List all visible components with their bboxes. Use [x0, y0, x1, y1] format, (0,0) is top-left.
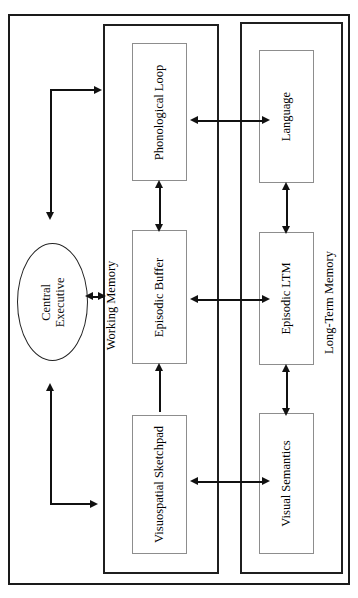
- node-episodic-buffer-label: Episodic Buffer: [133, 231, 186, 363]
- node-episodic-buffer[interactable]: Episodic Buffer: [132, 230, 187, 364]
- diagram-canvas: Working Memory Phonological Loop Episodi…: [0, 0, 358, 598]
- node-central-executive-label: Central Executive: [18, 244, 87, 360]
- node-visuospatial-sketchpad[interactable]: Visuospatial Sketchpad: [132, 415, 187, 554]
- node-phonological-loop[interactable]: Phonological Loop: [132, 43, 187, 181]
- node-phonological-loop-label: Phonological Loop: [133, 44, 186, 180]
- node-central-executive[interactable]: Central Executive: [17, 243, 88, 361]
- node-visuospatial-sketchpad-label: Visuospatial Sketchpad: [133, 416, 186, 553]
